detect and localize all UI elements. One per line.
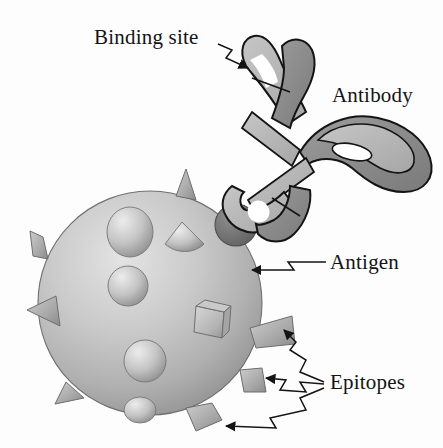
epitope-cone-top (176, 169, 196, 200)
label-binding-site: Binding site (94, 25, 199, 50)
label-antigen: Antigen (330, 250, 399, 275)
epitopes-leader-c (226, 388, 324, 428)
epitopes-leader-b (266, 378, 324, 392)
epitope-block-upper-left (30, 231, 48, 259)
epitope-dome-bottom (124, 397, 156, 423)
epitope-dome-lower (124, 340, 166, 382)
epitope-dome-upper (107, 207, 153, 257)
figure-canvas: Binding site Antibody Antigen Epitopes (0, 0, 443, 448)
epitope-dome-middle (108, 266, 148, 306)
label-epitopes: Epitopes (330, 370, 405, 395)
antibody-molecule (223, 36, 432, 242)
antigen-leader (252, 262, 326, 270)
epitope-block-bottom (186, 403, 222, 431)
label-antibody: Antibody (332, 83, 413, 108)
epitope-block-lower-right (240, 368, 266, 392)
